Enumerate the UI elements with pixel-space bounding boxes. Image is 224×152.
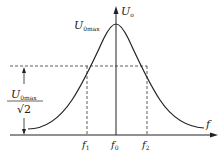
frequency-response-diagram: U0max √2 U0max Uo f f1 f0 f2: [0, 0, 224, 152]
fraction-denominator: √2: [17, 103, 31, 116]
peak-label: U0max: [74, 19, 100, 32]
tick-f1: f1: [81, 139, 90, 151]
x-axis-arrow-icon: [210, 133, 218, 138]
x-axis-label: f: [205, 118, 212, 131]
y-axis-label: Uo: [121, 5, 134, 18]
arrow-up-icon: [22, 67, 26, 73]
fraction-numerator: U0max: [11, 88, 37, 101]
arrow-down-icon: [22, 129, 26, 135]
y-axis-arrow-icon: [114, 6, 119, 14]
tick-f2: f2: [141, 139, 150, 151]
tick-f0: f0: [110, 139, 119, 151]
